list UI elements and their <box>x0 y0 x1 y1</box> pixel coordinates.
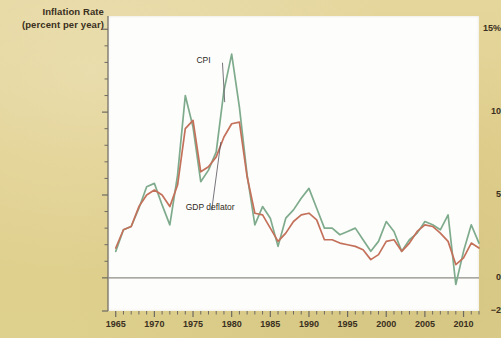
y-tick-label-5: 5 <box>401 189 501 199</box>
y-tick-label-0: 0 <box>401 272 501 282</box>
figure-inflation-chart: Inflation Rate (percent per year) −20510… <box>0 0 501 338</box>
x-tick-label-1990: 1990 <box>299 319 319 329</box>
data-series-group <box>116 54 479 284</box>
x-tick-label-1970: 1970 <box>144 319 164 329</box>
gdp-deflator-label: GDP deflator <box>186 202 235 212</box>
y-tick-label-15: 15% <box>401 23 501 33</box>
x-tick-label-1975: 1975 <box>183 319 203 329</box>
x-tick-label-1980: 1980 <box>222 319 242 329</box>
y-tick-label-10: 10 <box>401 106 501 116</box>
x-tick-label-2000: 2000 <box>376 319 396 329</box>
x-tick-label-1985: 1985 <box>260 319 280 329</box>
chart-svg <box>0 0 501 338</box>
x-tick-label-2005: 2005 <box>415 319 435 329</box>
cpi-label: CPI <box>196 55 210 65</box>
series-line-cpi <box>116 54 479 284</box>
y-tick-label-minus2: −2 <box>401 305 501 315</box>
y-axis-major-ticks <box>102 29 108 311</box>
x-tick-label-1965: 1965 <box>106 319 126 329</box>
x-tick-label-1995: 1995 <box>338 319 358 329</box>
x-tick-label-2010: 2010 <box>454 319 474 329</box>
